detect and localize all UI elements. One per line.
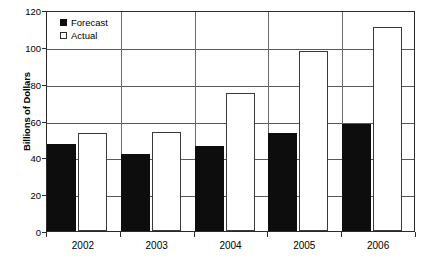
bar-forecast-2005 bbox=[268, 133, 297, 231]
x-tick-mark-4 bbox=[341, 232, 342, 237]
x-tick-mark-3 bbox=[267, 232, 268, 237]
legend-label-forecast: Forecast bbox=[71, 18, 108, 28]
y-tick-label-60: 60 bbox=[0, 116, 41, 127]
plot-area bbox=[46, 11, 415, 232]
bar-actual-2005 bbox=[299, 51, 328, 231]
legend-item-forecast: Forecast bbox=[60, 18, 108, 28]
bar-actual-2006 bbox=[373, 27, 402, 231]
legend-label-actual: Actual bbox=[71, 31, 97, 41]
y-tick-label-40: 40 bbox=[0, 153, 41, 164]
bar-forecast-2003 bbox=[121, 154, 150, 231]
bar-forecast-2002 bbox=[47, 144, 76, 231]
x-tick-label-2002: 2002 bbox=[53, 240, 113, 251]
bar-actual-2004 bbox=[226, 93, 255, 231]
x-tick-label-2004: 2004 bbox=[201, 240, 261, 251]
y-tick-label-80: 80 bbox=[0, 79, 41, 90]
bar-chart: Billions of Dollars 020406080100120 2002… bbox=[0, 0, 430, 268]
y-tick-label-20: 20 bbox=[0, 190, 41, 201]
x-tick-mark-end bbox=[415, 232, 416, 237]
y-tick-label-100: 100 bbox=[0, 42, 41, 53]
y-axis-title: Billions of Dollars bbox=[21, 32, 32, 192]
x-tick-mark-1 bbox=[120, 232, 121, 237]
bar-forecast-2004 bbox=[195, 146, 224, 231]
legend-swatch-actual-icon bbox=[60, 32, 67, 39]
bar-forecast-2006 bbox=[342, 124, 371, 231]
legend-item-actual: Actual bbox=[60, 31, 108, 41]
legend-swatch-forecast-icon bbox=[60, 19, 67, 26]
y-tick-label-0: 0 bbox=[0, 227, 41, 238]
x-tick-mark-2 bbox=[194, 232, 195, 237]
bar-actual-2003 bbox=[152, 132, 181, 231]
bars-layer bbox=[47, 12, 414, 231]
y-tick-label-120: 120 bbox=[0, 6, 41, 17]
x-tick-label-2006: 2006 bbox=[348, 240, 408, 251]
bar-actual-2002 bbox=[78, 133, 107, 231]
chart-legend: ForecastActual bbox=[57, 16, 113, 43]
x-tick-label-2005: 2005 bbox=[274, 240, 334, 251]
x-tick-mark-0 bbox=[46, 232, 47, 237]
x-tick-label-2003: 2003 bbox=[127, 240, 187, 251]
